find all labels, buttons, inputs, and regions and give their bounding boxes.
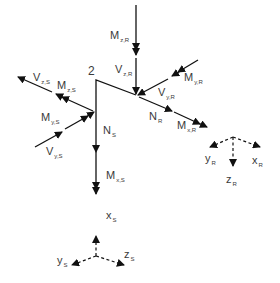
label-axis-x-r: xR	[252, 155, 263, 168]
label-axis-z-s: zS	[124, 249, 135, 262]
label-my-r: My,R	[184, 72, 203, 85]
label-mx-s: Mx,S	[106, 170, 125, 183]
label-vy-s: Vy,S	[46, 146, 63, 159]
label-vy-r: Vy,R	[158, 87, 175, 100]
label-vz-r: Vz,R	[115, 64, 132, 77]
label-axis-x-s: xS	[106, 210, 117, 223]
label-n-s: NS	[103, 125, 116, 138]
label-my-s: My,S	[41, 112, 59, 125]
label-vz-s: Vz,S	[33, 72, 50, 85]
free-body-diagram	[0, 0, 280, 283]
node-label: 2	[88, 65, 95, 77]
label-axis-y-s: yS	[57, 255, 68, 268]
label-mx-r: Mx,R	[177, 120, 196, 133]
label-axis-z-r: zR	[226, 174, 237, 187]
member-segment	[96, 80, 136, 118]
label-axis-y-r: yR	[205, 153, 216, 166]
label-mz-r: Mz,R	[110, 30, 129, 43]
axes-s	[72, 236, 124, 265]
arrow-my-s	[65, 112, 94, 129]
arrow-mz-s	[56, 94, 93, 111]
label-mz-s: Mz,S	[57, 80, 76, 93]
label-n-r: NR	[149, 111, 162, 124]
